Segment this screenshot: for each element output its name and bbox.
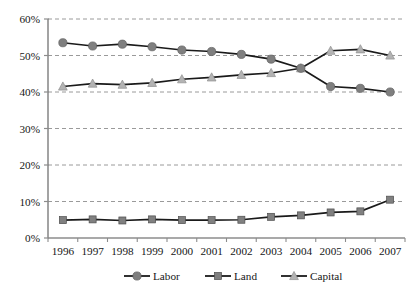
x-tick-label: 2001 xyxy=(200,245,222,257)
data-point-labor-2005 xyxy=(327,82,335,90)
chart-container: 0%10%20%30%40%50%60% 1996199719981999200… xyxy=(0,0,420,296)
x-tick-label: 1997 xyxy=(81,245,104,257)
x-tick-label: 1996 xyxy=(52,245,75,257)
data-point-labor-2001 xyxy=(208,47,216,55)
legend-marker-land xyxy=(215,273,222,280)
data-point-land-1998 xyxy=(119,217,126,224)
x-tick-label: 2005 xyxy=(319,245,342,257)
x-tick-label: 2006 xyxy=(349,245,372,257)
data-point-land-2000 xyxy=(178,217,185,224)
line-chart: 0%10%20%30%40%50%60% 1996199719981999200… xyxy=(0,0,420,296)
data-point-labor-1998 xyxy=(118,40,126,48)
legend-label-capital: Capital xyxy=(310,270,342,282)
x-tick-label: 1998 xyxy=(111,245,134,257)
x-tick-label: 2002 xyxy=(230,245,252,257)
data-point-land-1999 xyxy=(149,216,156,223)
data-point-land-2001 xyxy=(208,217,215,224)
data-point-land-2006 xyxy=(357,208,364,215)
y-tick-label: 30% xyxy=(19,123,40,135)
data-point-land-2003 xyxy=(268,213,275,220)
data-point-land-2004 xyxy=(297,212,304,219)
x-tick-label: 1999 xyxy=(141,245,164,257)
data-point-land-2002 xyxy=(238,216,245,223)
y-tick-label: 40% xyxy=(19,86,40,98)
y-tick-label: 60% xyxy=(19,13,40,25)
y-tick-label: 20% xyxy=(19,159,40,171)
data-point-labor-1997 xyxy=(89,42,97,50)
chart-legend: LaborLandCapital xyxy=(124,270,342,282)
data-point-land-1996 xyxy=(59,217,66,224)
legend-marker-labor xyxy=(133,272,141,280)
data-point-labor-1996 xyxy=(59,39,67,47)
data-point-labor-2002 xyxy=(237,50,245,58)
data-point-land-2007 xyxy=(387,196,394,203)
y-tick-label: 0% xyxy=(25,232,40,244)
data-point-labor-2003 xyxy=(267,55,275,63)
y-tick-label: 10% xyxy=(19,196,40,208)
data-point-labor-2007 xyxy=(386,88,394,96)
data-point-labor-2006 xyxy=(356,84,364,92)
data-point-land-2005 xyxy=(327,209,334,216)
y-tick-label: 50% xyxy=(19,50,40,62)
x-tick-label: 2000 xyxy=(171,245,194,257)
data-point-land-1997 xyxy=(89,216,96,223)
legend-label-labor: Labor xyxy=(153,270,180,282)
data-point-labor-2000 xyxy=(178,46,186,54)
data-point-labor-1999 xyxy=(148,43,156,51)
x-tick-label: 2007 xyxy=(379,245,402,257)
legend-label-land: Land xyxy=(234,270,257,282)
data-point-labor-2004 xyxy=(297,64,305,72)
x-tick-label: 2004 xyxy=(290,245,313,257)
x-tick-label: 2003 xyxy=(260,245,283,257)
